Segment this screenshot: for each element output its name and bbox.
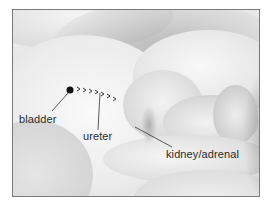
ureter-leader-line (98, 93, 100, 130)
ureter-arrows-icon (77, 87, 116, 101)
kidney-adrenal-label: kidney/adrenal (166, 148, 239, 160)
ureter-label: ureter (83, 130, 112, 142)
bladder-label: bladder (19, 113, 56, 125)
annotation-layer (0, 0, 276, 211)
kidney-leader-line (135, 127, 172, 147)
bladder-leader-line (52, 92, 69, 111)
bladder-marker-icon (67, 87, 74, 94)
